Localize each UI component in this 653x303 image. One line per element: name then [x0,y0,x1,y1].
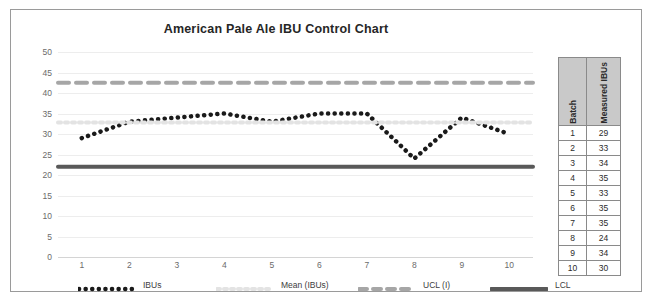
table-cell-measured-ibus: 35 [587,171,621,186]
plot-area: 05101520253035404550 [58,52,533,257]
legend-label: LCL [555,280,571,290]
y-axis-tick-label: 5 [47,232,52,242]
series-line-ibus [82,114,510,159]
series-layer [58,52,533,257]
data-table: Batch Measured IBUs 12923333443553363573… [558,57,621,276]
x-axis-tick-label: 2 [127,260,132,270]
x-axis-tick-label: 7 [364,260,369,270]
table-cell-measured-ibus: 33 [587,186,621,201]
table-body: 1292333344355336357358249341030 [559,126,621,276]
legend-label: UCL (I) [423,280,450,290]
table-cell-batch: 8 [559,231,587,246]
table-cell-measured-ibus: 35 [587,216,621,231]
table-row: 934 [559,246,621,261]
table-cell-batch: 4 [559,171,587,186]
table-cell-batch: 1 [559,126,587,141]
x-axis-tick-label: 5 [269,260,274,270]
table-cell-measured-ibus: 29 [587,126,621,141]
y-axis-tick-label: 40 [43,88,52,98]
table-cell-measured-ibus: 30 [587,261,621,276]
table-cell-measured-ibus: 33 [587,141,621,156]
y-axis-tick-label: 45 [43,68,52,78]
table-row: 635 [559,201,621,216]
table-cell-measured-ibus: 34 [587,246,621,261]
chart-container: American Pale Ale IBU Control Chart 0510… [10,9,642,292]
table-row: 233 [559,141,621,156]
chart-title: American Pale Ale IBU Control Chart [11,22,541,36]
legend-swatch-icon [358,280,416,290]
x-axis-tick-label: 4 [222,260,227,270]
legend-swatch-icon [78,280,136,290]
y-axis-tick-label: 50 [43,47,52,57]
table-cell-batch: 7 [559,216,587,231]
y-axis-tick-label: 10 [43,211,52,221]
table-row: 735 [559,216,621,231]
legend-item-ibus[interactable]: IBUs [78,276,161,294]
y-axis-tick-label: 20 [43,170,52,180]
table-header-row: Batch Measured IBUs [559,58,621,126]
x-axis-tick-label: 10 [505,260,514,270]
table-row: 824 [559,231,621,246]
chart-legend: IBUsMean (IBUs)UCL (I)LCL [58,276,536,294]
x-axis-tick-labels: 12345678910 [58,260,533,274]
table-cell-measured-ibus: 34 [587,156,621,171]
legend-item-ucl-i-[interactable]: UCL (I) [358,276,450,294]
x-axis-tick-label: 1 [79,260,84,270]
table-row: 1030 [559,261,621,276]
table-cell-batch: 10 [559,261,587,276]
x-axis-line [58,257,533,258]
x-axis-tick-label: 6 [317,260,322,270]
table-header-measured-ibus-label: Measured IBUs [599,58,609,123]
legend-label: IBUs [143,280,161,290]
table-cell-batch: 3 [559,156,587,171]
legend-swatch-icon [216,280,274,290]
table-row: 129 [559,126,621,141]
y-axis-tick-label: 15 [43,191,52,201]
table-row: 435 [559,171,621,186]
table-cell-batch: 2 [559,141,587,156]
legend-swatch-icon [490,280,548,290]
y-axis-tick-label: 25 [43,150,52,160]
x-axis-tick-label: 9 [459,260,464,270]
table-cell-batch: 6 [559,201,587,216]
table-cell-measured-ibus: 24 [587,231,621,246]
table-row: 334 [559,156,621,171]
x-axis-tick-label: 3 [174,260,179,270]
table-cell-batch: 9 [559,246,587,261]
table-header-measured-ibus: Measured IBUs [587,58,621,126]
legend-label: Mean (IBUs) [281,280,329,290]
y-axis-tick-label: 30 [43,129,52,139]
table-cell-measured-ibus: 35 [587,201,621,216]
table-header-batch-label: Batch [568,96,578,124]
y-axis-tick-label: 0 [47,252,52,262]
table-row: 533 [559,186,621,201]
legend-item-lcl[interactable]: LCL [490,276,571,294]
y-axis-tick-label: 35 [43,109,52,119]
x-axis-tick-label: 8 [412,260,417,270]
legend-item-mean-ibus-[interactable]: Mean (IBUs) [216,276,329,294]
table-cell-batch: 5 [559,186,587,201]
table-header-batch: Batch [559,58,587,126]
